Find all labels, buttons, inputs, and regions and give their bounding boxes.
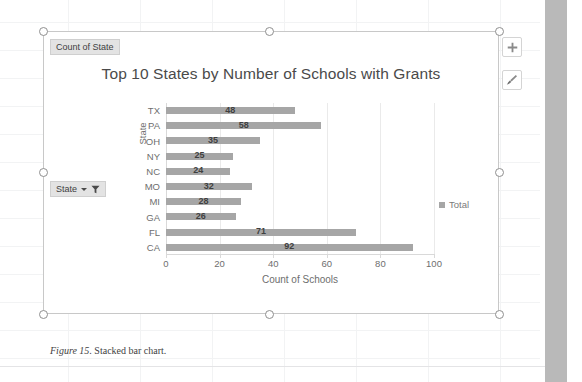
caption-divider — [0, 366, 545, 367]
bar-data-label: 71 — [256, 226, 266, 236]
figure-caption: Figure 15. Stacked bar chart. — [50, 345, 166, 356]
bar-row[interactable]: 92 — [166, 240, 434, 255]
pivot-chart-object[interactable]: Count of State State Top 10 States by Nu… — [43, 31, 499, 314]
bar-data-label: 35 — [208, 135, 218, 145]
chart-title[interactable]: Top 10 States by Number of Schools with … — [44, 65, 498, 83]
selection-handle-bottom-center[interactable] — [265, 310, 274, 319]
y-axis-tick-label: CA — [130, 240, 162, 255]
chart-legend[interactable]: Total — [439, 199, 469, 210]
y-axis-tick-label: PA — [130, 118, 162, 133]
y-axis-tick-label: OH — [130, 133, 162, 148]
y-axis-tick-label: NY — [130, 149, 162, 164]
filter-funnel-icon[interactable] — [91, 185, 100, 194]
chart-elements-button[interactable] — [502, 37, 522, 57]
bar-row[interactable]: 48 — [166, 103, 434, 118]
y-axis-category-labels[interactable]: TXPAOHNYNCMOMIGAFLCA — [130, 103, 162, 255]
legend-swatch-total — [439, 202, 445, 208]
y-axis-tick-label: MI — [130, 194, 162, 209]
x-axis-tick-label: 80 — [375, 258, 386, 269]
paintbrush-icon — [506, 74, 518, 86]
x-axis-title[interactable]: Count of Schools — [166, 274, 434, 285]
selection-handle-bottom-left[interactable] — [39, 310, 48, 319]
y-axis-tick-label: MO — [130, 179, 162, 194]
chart-styles-button[interactable] — [502, 70, 522, 90]
y-axis-tick-label: GA — [130, 209, 162, 224]
y-axis-tick-label: FL — [130, 225, 162, 240]
x-axis-tick-label: 40 — [268, 258, 279, 269]
bar-row[interactable]: 26 — [166, 209, 434, 224]
plus-icon — [507, 42, 518, 53]
x-axis-tick-label: 20 — [214, 258, 225, 269]
x-axis-tick-label: 100 — [426, 258, 442, 269]
selection-handle-top-center[interactable] — [265, 27, 274, 36]
bar-data-label: 92 — [284, 241, 294, 251]
field-button-state[interactable]: State — [50, 181, 106, 197]
bar-row[interactable]: 71 — [166, 225, 434, 240]
y-axis-tick-label: NC — [130, 164, 162, 179]
plot-area[interactable]: 48583525243228267192 — [166, 103, 434, 255]
bar-data-label: 48 — [225, 105, 235, 115]
bar-data-label: 26 — [196, 211, 206, 221]
bar-data-label: 58 — [239, 120, 249, 130]
legend-label-total: Total — [449, 199, 469, 210]
y-axis-tick-label: TX — [130, 103, 162, 118]
bar-row[interactable]: 58 — [166, 118, 434, 133]
bar-data-label: 24 — [193, 165, 203, 175]
selection-handle-middle-right[interactable] — [495, 168, 504, 177]
figure-caption-number: Figure 15 — [50, 345, 89, 356]
x-axis-tick-label: 0 — [163, 258, 168, 269]
vertical-scrollbar[interactable] — [545, 0, 567, 382]
selection-handle-bottom-right[interactable] — [495, 310, 504, 319]
bar-data-label: 32 — [204, 181, 214, 191]
selection-handle-middle-left[interactable] — [39, 168, 48, 177]
bar-row[interactable]: 35 — [166, 133, 434, 148]
chart-gridline — [434, 103, 435, 255]
bar-row[interactable]: 32 — [166, 179, 434, 194]
bar-data-label: 25 — [194, 150, 204, 160]
field-button-state-label: State — [56, 182, 77, 196]
document-page: Count of State State Top 10 States by Nu… — [0, 0, 582, 382]
x-axis-tick-labels[interactable]: 020406080100 — [166, 258, 434, 272]
bar-row[interactable]: 24 — [166, 164, 434, 179]
chevron-down-icon[interactable] — [81, 188, 87, 191]
bar-row[interactable]: 28 — [166, 194, 434, 209]
selection-handle-top-right[interactable] — [495, 27, 504, 36]
figure-caption-text: . Stacked bar chart. — [89, 345, 166, 356]
x-axis-tick-label: 60 — [322, 258, 333, 269]
field-button-count-of-state-label: Count of State — [56, 40, 114, 54]
field-button-count-of-state[interactable]: Count of State — [50, 39, 120, 55]
page-right-margin — [567, 0, 582, 382]
selection-handle-top-left[interactable] — [39, 27, 48, 36]
bar-row[interactable]: 25 — [166, 149, 434, 164]
bar-data-label: 28 — [199, 196, 209, 206]
